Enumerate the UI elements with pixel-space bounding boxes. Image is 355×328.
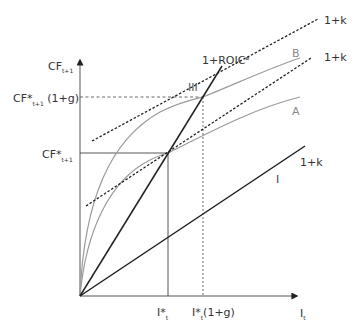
- y-tick-cf-star: CF*t+1: [42, 148, 73, 163]
- k-line-upper: [92, 19, 318, 141]
- investment-cashflow-diagram: CFt+1 CF*t+1 (1+g) CF*t+1 I*t I*t(1+g) I…: [0, 0, 355, 328]
- k-upper-label: 1+k: [324, 14, 347, 27]
- y-tick-cf-star-growth: CF*t+1 (1+g): [13, 92, 79, 107]
- k-solid-label: 1+k: [300, 156, 323, 169]
- k-line-solid: [80, 146, 305, 296]
- y-axis-label: CFt+1: [48, 60, 73, 74]
- region-iii-label: III: [188, 81, 198, 94]
- region-i-label: I: [276, 173, 279, 186]
- k-lower-label: 1+k: [324, 51, 347, 64]
- curve-a-label: A: [292, 105, 300, 118]
- curve-a: [80, 97, 300, 296]
- x-tick-i-star: I*t: [157, 306, 169, 321]
- curve-b-label: B: [292, 47, 300, 60]
- roic-label: 1+ROICø: [202, 54, 249, 67]
- x-axis-label: It: [300, 307, 306, 321]
- x-tick-i-star-growth: I*t(1+g): [192, 306, 235, 321]
